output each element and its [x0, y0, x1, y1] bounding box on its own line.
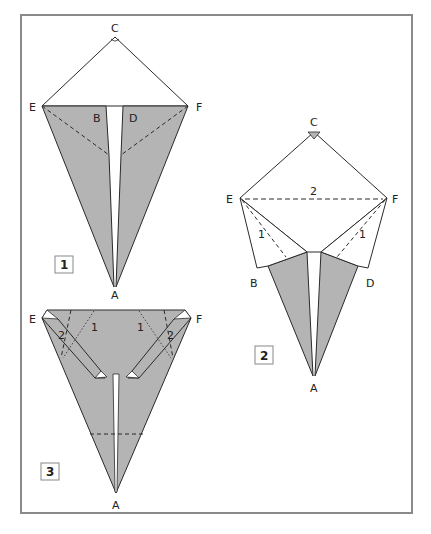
fold-mark: 1: [91, 321, 98, 334]
fold-mark: 1: [258, 228, 265, 241]
step-number: 1: [60, 258, 68, 272]
step-2-diagram: C E F B D A 2 1 1 2: [226, 116, 398, 395]
step-3-diagram: E F A 1 1 2 2 3: [29, 310, 202, 512]
point-label-e: E: [29, 101, 36, 114]
point-label-c: C: [111, 22, 119, 35]
point-label-f: F: [392, 193, 398, 206]
step-1-diagram: C E F B D A 1: [29, 22, 202, 302]
fold-mark: 1: [137, 321, 144, 334]
point-label-f: F: [196, 313, 202, 326]
point-label-a: A: [310, 382, 318, 395]
diagrams-canvas: C E F B D A 1 C E F B D A 2 1: [0, 0, 431, 534]
point-label-e: E: [29, 313, 36, 326]
point-label-b: B: [93, 112, 101, 125]
fold-mark: 2: [310, 185, 317, 198]
instruction-sheet: C E F B D A 1 C E F B D A 2 1: [0, 0, 431, 534]
point-label-f: F: [196, 101, 202, 114]
point-label-d: D: [366, 277, 374, 290]
fold-mark: 2: [167, 329, 174, 342]
point-label-e: E: [226, 193, 233, 206]
step-number: 3: [46, 465, 54, 479]
point-label-a: A: [112, 499, 120, 512]
fold-mark: 2: [58, 329, 65, 342]
point-label-a: A: [111, 289, 119, 302]
step-number: 2: [260, 349, 268, 363]
fold-mark: 1: [359, 228, 366, 241]
point-label-c: C: [310, 116, 318, 129]
point-label-b: B: [250, 277, 258, 290]
point-label-d: D: [129, 112, 137, 125]
